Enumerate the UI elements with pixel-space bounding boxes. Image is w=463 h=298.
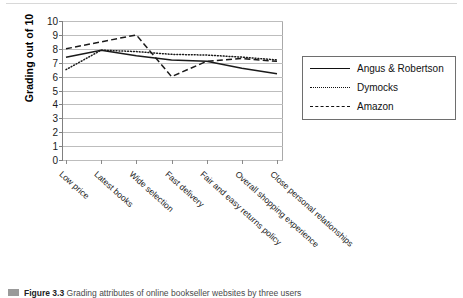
legend-line-sample <box>310 87 350 88</box>
caption-marker-icon <box>8 289 19 296</box>
legend-box[interactable]: Angus & RobertsonDymocksAmazon <box>302 56 456 120</box>
caption-figure-label: Figure 3.3 <box>24 288 64 298</box>
y-tick-label: 2 <box>52 127 58 138</box>
y-tick-label: 8 <box>52 43 58 54</box>
legend-item[interactable]: Dymocks <box>303 79 455 97</box>
caption-text: Grading attributes of online bookseller … <box>67 288 302 298</box>
y-tick-label: 9 <box>52 29 58 40</box>
y-tick-label: 5 <box>52 85 58 96</box>
legend-label: Dymocks <box>357 82 398 93</box>
y-tick-label: 7 <box>52 57 58 68</box>
x-tick-label: Low price <box>57 169 91 201</box>
y-tick-label: 10 <box>47 16 58 27</box>
legend-label: Amazon <box>357 101 394 112</box>
legend-line-sample <box>310 106 350 107</box>
figure-container: Grading out of 10 109876543210 Low price… <box>0 0 463 298</box>
series-line <box>66 35 277 77</box>
y-tick-label: 0 <box>52 155 58 166</box>
series-lines <box>62 21 283 161</box>
y-tick-label: 3 <box>52 113 58 124</box>
legend-item[interactable]: Angus & Robertson <box>303 60 455 78</box>
legend-item[interactable]: Amazon <box>303 98 455 116</box>
figure-caption: Figure 3.3 Grading attributes of online … <box>24 288 454 298</box>
y-tick-label: 4 <box>52 99 58 110</box>
legend-label: Angus & Robertson <box>357 63 444 74</box>
plot-area: 109876543210 Low priceLatest booksWide s… <box>62 21 283 161</box>
y-tick-label: 1 <box>52 141 58 152</box>
y-tick-label: 6 <box>52 71 58 82</box>
y-axis-title: Grading out of 10 <box>23 0 35 123</box>
legend-line-sample <box>310 68 350 69</box>
